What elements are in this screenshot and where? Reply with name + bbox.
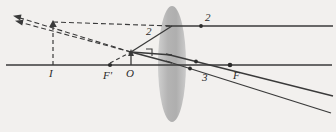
label-image-point: I bbox=[49, 68, 53, 79]
focus-front-dot bbox=[108, 63, 112, 67]
ray-center-refracted bbox=[166, 54, 333, 96]
image-arrow-head bbox=[49, 20, 57, 27]
virtual-ray-upper-arrowhead bbox=[13, 15, 22, 21]
lens-shape bbox=[158, 6, 186, 122]
construction-line-horizontal bbox=[53, 22, 172, 26]
label-front-focus: F' bbox=[103, 70, 112, 81]
focus-back-dot bbox=[228, 63, 233, 68]
ray-diagram-canvas bbox=[0, 0, 336, 132]
optics-ray-diagram: I F' O 2 2 3 F bbox=[0, 0, 336, 132]
virtual-ray-lower-arrowhead bbox=[15, 20, 24, 26]
label-ray-three: 3 bbox=[202, 72, 208, 83]
label-back-focus: F bbox=[233, 70, 240, 81]
ray-center-marker-dot bbox=[194, 60, 198, 64]
label-ray-two-right: 2 bbox=[205, 12, 211, 23]
label-lens-center: O bbox=[126, 68, 134, 79]
label-ray-two-near-lens: 2 bbox=[146, 26, 152, 37]
virtual-ray-lower bbox=[19, 22, 131, 52]
ray-2-marker-dot bbox=[199, 24, 203, 28]
construction-line-focus bbox=[110, 52, 131, 63]
construction-tick bbox=[146, 49, 152, 56]
ray-3-marker-dot bbox=[188, 67, 192, 71]
